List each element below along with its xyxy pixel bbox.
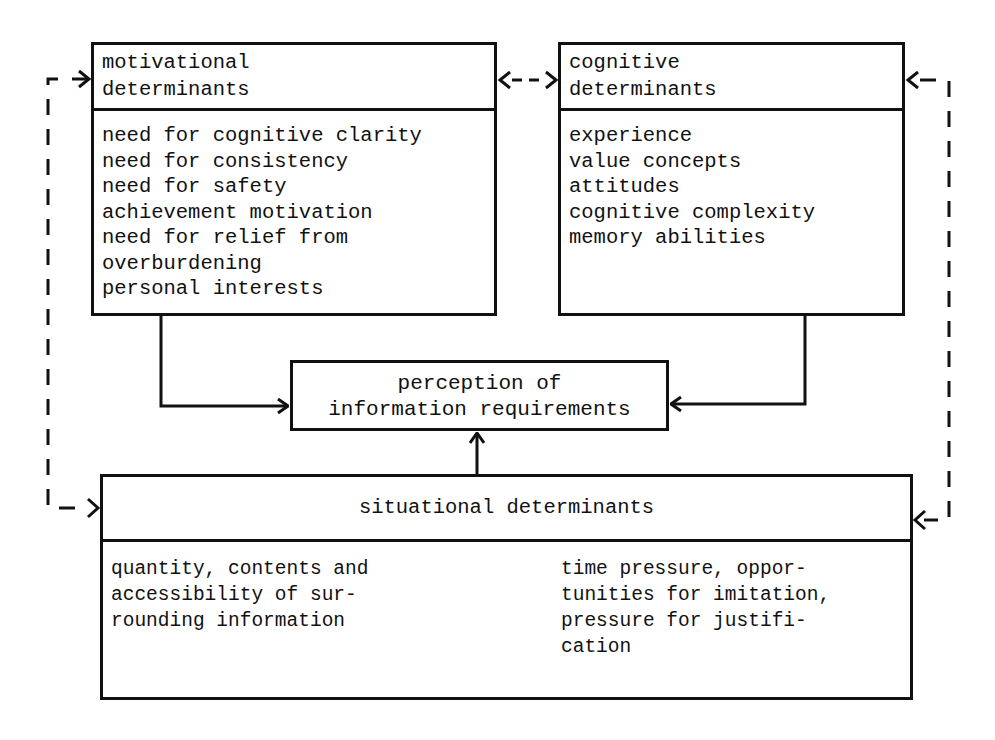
- title-line: cognitive: [569, 49, 894, 76]
- list-item: need for relief from: [102, 225, 486, 251]
- title-line: determinants: [102, 76, 486, 103]
- cognitive-determinants-box: cognitive determinants experience value …: [558, 42, 905, 316]
- text-line: pressure for justifi-: [561, 608, 901, 634]
- list-item: need for safety: [102, 174, 486, 200]
- motivational-determinants-list: need for cognitive clarity need for cons…: [94, 111, 494, 302]
- perception-of-information-requirements-box: perception of information requirements: [290, 360, 669, 431]
- arrow-cognitive-to-perception: [671, 316, 805, 404]
- title-line: motivational: [102, 49, 486, 76]
- situational-determinants-title: situational determinants: [103, 477, 910, 542]
- text-line: accessibility of sur-: [111, 582, 561, 608]
- situational-determinants-box: situational determinants quantity, conte…: [100, 474, 913, 700]
- situational-left-column: quantity, contents and accessibility of …: [111, 556, 561, 660]
- text-line: time pressure, oppor-: [561, 556, 901, 582]
- motivational-determinants-box: motivational determinants need for cogni…: [91, 42, 497, 316]
- cognitive-determinants-list: experience value concepts attitudes cogn…: [561, 111, 902, 251]
- dashed-loop-left: [48, 79, 88, 508]
- arrow-motivational-to-perception: [161, 316, 288, 406]
- list-item: need for consistency: [102, 149, 486, 175]
- list-item: personal interests: [102, 276, 486, 302]
- arrowhead-right-to-situational: [915, 511, 925, 529]
- situational-determinants-content: quantity, contents and accessibility of …: [103, 542, 910, 660]
- list-item: memory abilities: [569, 225, 894, 251]
- cognitive-determinants-title: cognitive determinants: [561, 45, 902, 111]
- list-item: overburdening: [102, 251, 486, 277]
- list-item: value concepts: [569, 149, 894, 175]
- motivational-determinants-title: motivational determinants: [94, 45, 494, 111]
- text-line: tunities for imitation,: [561, 582, 901, 608]
- title-line: information requirements: [293, 397, 666, 423]
- arrowhead-right-to-cognitive: [908, 72, 918, 88]
- text-line: quantity, contents and: [111, 556, 561, 582]
- title-line: determinants: [569, 76, 894, 103]
- arrowhead-left-to-situational: [88, 499, 98, 517]
- text-line: rounding information: [111, 608, 561, 634]
- arrowhead-to-cognitive: [546, 72, 556, 88]
- list-item: attitudes: [569, 174, 894, 200]
- title-line: perception of: [293, 371, 666, 397]
- list-item: experience: [569, 123, 894, 149]
- situational-right-column: time pressure, oppor- tunities for imita…: [561, 556, 901, 660]
- list-item: achievement motivation: [102, 200, 486, 226]
- text-line: cation: [561, 634, 901, 660]
- list-item: need for cognitive clarity: [102, 123, 486, 149]
- arrowhead-to-motivational: [500, 72, 510, 88]
- list-item: cognitive complexity: [569, 200, 894, 226]
- dashed-loop-right: [920, 80, 949, 520]
